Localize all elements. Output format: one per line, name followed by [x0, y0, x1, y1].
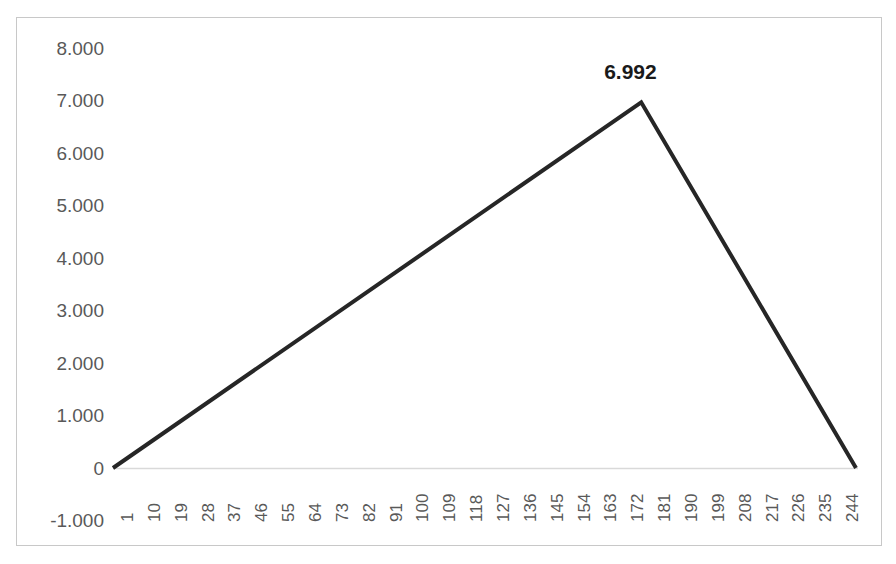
x-tick-label: 208	[737, 494, 754, 522]
x-tick-label: 235	[817, 494, 834, 522]
x-tick-label: 181	[656, 494, 673, 522]
x-tick-label: 172	[629, 494, 646, 522]
x-tick-label: 1	[119, 513, 136, 522]
x-tick-label: 19	[173, 503, 190, 522]
x-tick-label: 136	[522, 494, 539, 522]
peak-data-label: 6.992	[604, 61, 657, 82]
x-tick-label: 91	[388, 503, 405, 522]
x-tick-label: 109	[441, 494, 458, 522]
x-tick-label: 199	[710, 494, 727, 522]
x-tick-label: 64	[307, 503, 324, 522]
x-tick-label: 190	[683, 494, 700, 522]
x-axis-tick-labels: 1101928374655647382911001091181271361451…	[0, 0, 896, 564]
x-tick-label: 226	[790, 494, 807, 522]
x-tick-label: 244	[844, 494, 861, 522]
x-tick-label: 82	[361, 503, 378, 522]
x-tick-label: 55	[280, 503, 297, 522]
x-tick-label: 10	[146, 503, 163, 522]
x-tick-label: 100	[414, 494, 431, 522]
x-tick-label: 118	[468, 495, 485, 522]
x-tick-label: 217	[764, 494, 781, 522]
x-tick-label: 163	[602, 494, 619, 522]
x-tick-label: 127	[495, 494, 512, 522]
chart-figure: 8.000 7.000 6.000 5.000 4.000 3.000 2.00…	[0, 0, 896, 564]
x-tick-label: 46	[253, 503, 270, 522]
x-tick-label: 37	[226, 503, 243, 522]
x-tick-label: 145	[549, 494, 566, 522]
x-tick-label: 73	[334, 503, 351, 522]
x-tick-label: 28	[200, 503, 217, 522]
x-tick-label: 154	[576, 494, 593, 522]
